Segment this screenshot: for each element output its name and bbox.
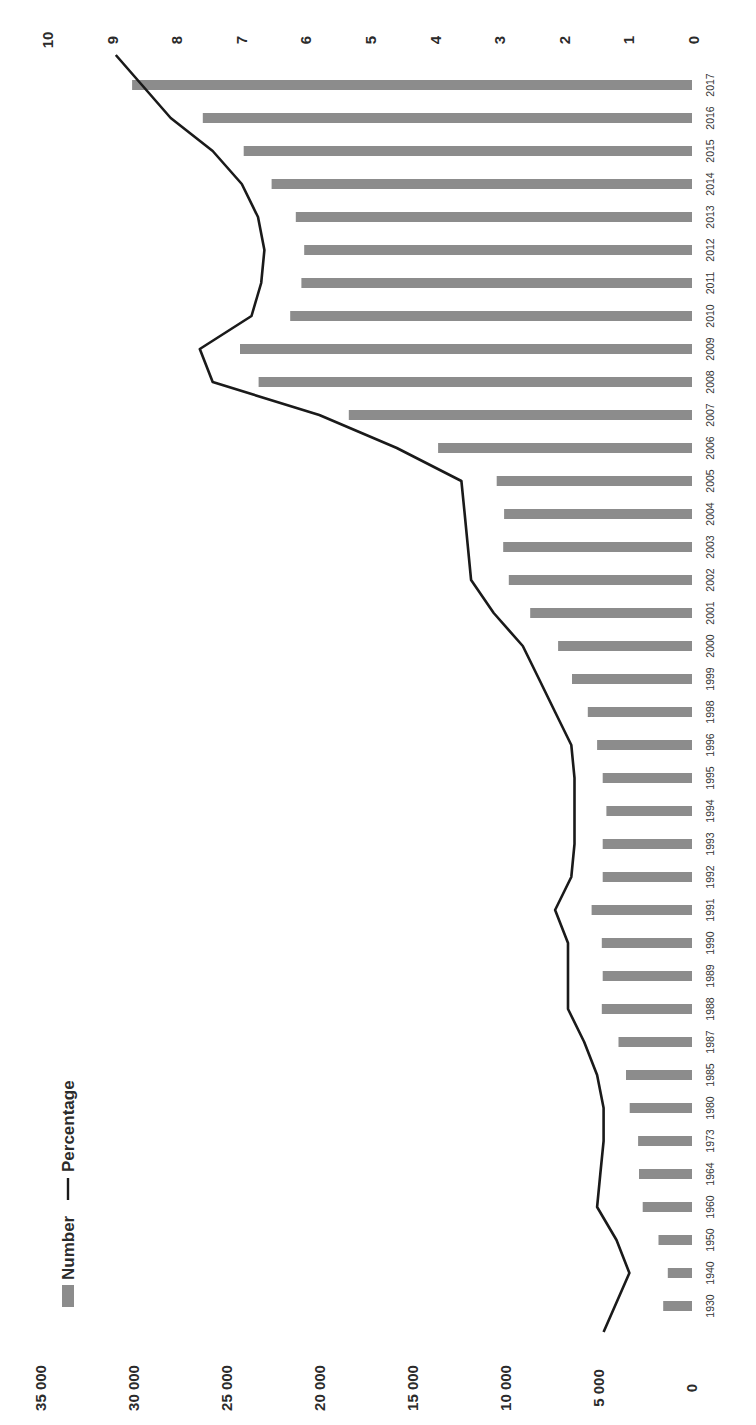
percentage-axis-tick: 6 [297, 36, 314, 44]
year-label: 1992 [704, 865, 716, 889]
percentage-axis-tick: 10 [39, 32, 56, 49]
year-label: 1989 [704, 964, 716, 988]
year-label: 2004 [704, 502, 716, 526]
bar-2014 [272, 179, 692, 189]
legend-swatch-number [62, 1285, 74, 1307]
bar-1964 [639, 1169, 692, 1179]
secondary-axis-percentage-ticks: 012345678910 [39, 32, 702, 49]
percentage-axis-tick: 3 [491, 36, 508, 44]
year-label: 1973 [704, 1129, 716, 1153]
year-label: 2009 [704, 337, 716, 361]
bar-1994 [606, 806, 692, 816]
year-label: 1980 [704, 1096, 716, 1120]
percentage-axis-tick: 8 [168, 36, 185, 44]
percentage-axis-tick: 0 [685, 36, 702, 44]
year-label: 2007 [704, 403, 716, 427]
bar-2005 [497, 476, 692, 486]
bar-1930 [663, 1301, 692, 1311]
year-label: 1964 [704, 1162, 716, 1186]
percentage-axis-tick: 4 [427, 35, 444, 44]
year-label: 1985 [704, 1063, 716, 1087]
combo-chart: 1930194019501960196419731980198519871988… [0, 0, 756, 1425]
number-axis-tick: 15 000 [404, 1365, 421, 1411]
year-label: 1987 [704, 1030, 716, 1054]
number-axis-tick: 20 000 [311, 1365, 328, 1411]
bar-1988 [602, 1004, 692, 1014]
bar-2009 [240, 344, 692, 354]
year-label: 2006 [704, 436, 716, 460]
bar-2017 [132, 80, 692, 90]
year-label: 1960 [704, 1195, 716, 1219]
primary-axis-number-ticks: 05 00010 00015 00020 00025 00030 00035 0… [32, 1365, 700, 1411]
number-axis-tick: 35 000 [32, 1365, 49, 1411]
number-axis-tick: 0 [683, 1384, 700, 1392]
legend-label-number: Number [59, 1215, 78, 1280]
bar-1973 [638, 1136, 692, 1146]
bar-1987 [619, 1037, 693, 1047]
bar-1940 [668, 1268, 692, 1278]
legend: Number Percentage [59, 1080, 78, 1307]
year-label: 2003 [704, 535, 716, 559]
bar-1998 [588, 707, 692, 717]
year-label: 1930 [704, 1294, 716, 1318]
year-label: 1996 [704, 733, 716, 757]
bar-2013 [296, 212, 692, 222]
year-label: 1998 [704, 700, 716, 724]
year-label: 2016 [704, 106, 716, 130]
bar-1960 [643, 1202, 692, 1212]
bar-2016 [203, 113, 692, 123]
legend-label-percentage: Percentage [59, 1080, 78, 1172]
bar-2003 [503, 542, 692, 552]
bar-1950 [659, 1235, 693, 1245]
bar-1989 [603, 971, 692, 981]
year-label: 1995 [704, 766, 716, 790]
bar-2010 [290, 311, 692, 321]
year-label: 2012 [704, 238, 716, 262]
year-label: 2008 [704, 370, 716, 394]
year-label: 1940 [704, 1261, 716, 1285]
bar-1980 [630, 1103, 692, 1113]
percentage-axis-tick: 2 [556, 36, 573, 44]
x-axis-year-labels: 1930194019501960196419731980198519871988… [704, 73, 716, 1318]
percentage-axis-tick: 7 [233, 36, 250, 44]
year-label: 2002 [704, 568, 716, 592]
bar-1991 [592, 905, 692, 915]
year-label: 2013 [704, 205, 716, 229]
year-label: 1999 [704, 667, 716, 691]
number-axis-tick: 5 000 [590, 1369, 607, 1407]
year-label: 2011 [704, 272, 716, 295]
bar-1996 [597, 740, 692, 750]
bar-1999 [572, 674, 692, 684]
year-label: 2015 [704, 139, 716, 163]
percentage-axis-tick: 1 [620, 36, 637, 44]
number-axis-tick: 30 000 [125, 1365, 142, 1411]
bar-1993 [603, 839, 692, 849]
number-bars [132, 80, 692, 1311]
percentage-axis-tick: 9 [104, 36, 121, 44]
bar-2008 [259, 377, 692, 387]
bar-1985 [626, 1070, 692, 1080]
number-axis-tick: 10 000 [497, 1365, 514, 1411]
year-label: 1994 [704, 799, 716, 823]
bar-1990 [602, 938, 692, 948]
year-label: 2010 [704, 304, 716, 328]
bar-2012 [304, 245, 692, 255]
bar-2002 [509, 575, 692, 585]
year-label: 1990 [704, 931, 716, 955]
year-label: 2001 [704, 601, 716, 625]
bar-2015 [244, 146, 692, 156]
year-label: 2000 [704, 634, 716, 658]
year-label: 2005 [704, 469, 716, 493]
bar-2006 [438, 443, 692, 453]
bar-1995 [603, 773, 692, 783]
bar-1992 [603, 872, 692, 882]
year-label: 1993 [704, 832, 716, 856]
bar-2007 [349, 410, 692, 420]
year-label: 1950 [704, 1228, 716, 1252]
year-label: 2014 [704, 172, 716, 196]
bar-2000 [558, 641, 692, 651]
bar-2004 [504, 509, 692, 519]
year-label: 1991 [704, 898, 716, 922]
year-label: 2017 [704, 73, 716, 97]
percentage-axis-tick: 5 [362, 36, 379, 44]
